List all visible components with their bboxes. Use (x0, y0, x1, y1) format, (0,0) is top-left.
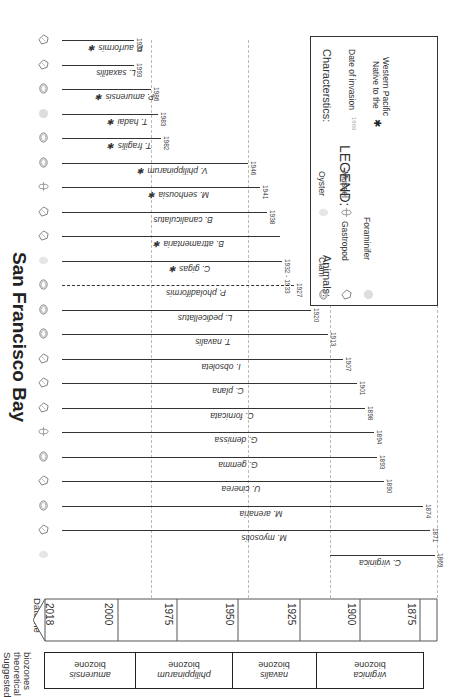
legend-foraminifer-label: Foraminifer (362, 217, 372, 260)
invasion-year: 1938 (269, 210, 276, 224)
invasion-year: 1983 (160, 112, 167, 126)
clam-icon (38, 157, 49, 168)
invasion-year: 1993 (136, 63, 143, 77)
invasion-year: 1946 (250, 161, 257, 175)
gastropod-icon (38, 59, 49, 70)
invasion-line (62, 359, 343, 360)
star-icon: ✱ (372, 119, 383, 127)
foraminifer-icon (363, 289, 374, 300)
invasion-line (62, 432, 374, 433)
invasion-line (62, 334, 328, 335)
invasion-line (62, 65, 134, 66)
gastropod-icon (38, 34, 49, 45)
oyster-icon (38, 549, 49, 560)
species-name: L. pedicellatus (165, 313, 245, 323)
species-name: B. attramentaria ✱ (149, 239, 229, 249)
invasion-line (62, 212, 267, 213)
species-name: C. fornicata (192, 411, 272, 421)
biozone-label: amurensisbiozone (50, 660, 130, 680)
biozones-label-3: biozones (22, 652, 32, 690)
legend-date-sample: 1869 (351, 117, 357, 130)
gastropod-icon (38, 377, 49, 388)
invasion-year: 1890 (386, 479, 393, 493)
invasion-year: 1901 (359, 381, 366, 395)
page-title: San Francisco Bay (8, 252, 30, 422)
species-name: G. gemma (198, 460, 278, 470)
legend-gastropod-label: Gastropod (340, 221, 350, 261)
invasion-year: 1982 (163, 136, 170, 150)
legend-clam-label: Clam (317, 257, 327, 277)
gastropod-icon (38, 402, 49, 413)
invasion-line (62, 114, 158, 115)
gastropod-icon (38, 475, 49, 486)
oyster-icon (318, 207, 329, 218)
invasion-line (62, 408, 365, 409)
dateline-arrow (33, 598, 438, 642)
invasion-line (62, 138, 161, 139)
dateline-1975: 1975 (163, 603, 174, 625)
invasion-line (62, 457, 377, 458)
invasion-year: 1932 - 1933 (284, 259, 291, 294)
species-name: T. hadai ✱ (88, 117, 168, 127)
invasion-year: 1907 (345, 357, 352, 371)
species-name: P. pholadiformis (156, 288, 236, 298)
invasion-year: 1871 (432, 528, 439, 542)
species-name: C. virginica (340, 558, 420, 568)
biozone-label: philippinarumbiozone (144, 660, 224, 680)
dateline-2000: 2000 (103, 603, 114, 625)
species-name: M. arenaria (221, 509, 301, 519)
clam-icon (38, 83, 49, 94)
invasion-line (62, 40, 134, 41)
invasion-line (62, 236, 280, 237)
invasion-line (330, 555, 435, 556)
species-name: G. demissa (196, 435, 276, 445)
species-name: M. senhousia ✱ (139, 190, 219, 200)
invasion-line (62, 506, 423, 507)
mussel-icon (341, 207, 352, 218)
species-name: V. philippinarum ✱ (133, 166, 213, 176)
invasion-line (62, 285, 294, 286)
invasion-year: 1920 (313, 308, 320, 322)
invasion-line (62, 530, 430, 531)
gastropod-icon (38, 353, 49, 364)
legend-date-label: Date of invasion (347, 49, 357, 110)
legend-native-label-1: Native to the (371, 61, 381, 109)
dateline-1900: 1900 (346, 603, 357, 625)
invasion-line (62, 187, 260, 188)
legend-native-label-2: Western Pacific (381, 57, 391, 116)
clam-icon (38, 304, 49, 315)
invasion-year: 1898 (367, 406, 374, 420)
legend-box: LEGEND: Animals: Characterstics: Clam Ga… (310, 36, 438, 306)
legend-oyster-label: Oyster (317, 171, 327, 196)
invasion-year: 1894 (376, 430, 383, 444)
species-name: C. gigas ✱ (150, 264, 230, 274)
clam-icon (318, 289, 329, 300)
clam-icon (38, 279, 49, 290)
invasion-line (62, 163, 248, 164)
biozone-label: navalisbiozone (234, 660, 314, 680)
biozone-label: virginicabiozone (330, 660, 410, 680)
species-name: U. cinerea (201, 484, 281, 494)
invasion-year: 1927 (296, 283, 303, 297)
clam-icon (38, 451, 49, 462)
gastropod-icon (38, 524, 49, 535)
invasion-line (62, 310, 311, 311)
invasion-year: 1893 (379, 455, 386, 469)
dateline-1950: 1950 (224, 603, 235, 625)
foraminifer-icon (38, 108, 49, 119)
dateline-1875: 1875 (406, 603, 417, 625)
species-name: T. fragilis ✱ (90, 141, 170, 151)
invasion-year: 1869 (437, 553, 444, 567)
dateline-2018: 2018 (44, 603, 55, 625)
legend-mussel-label: Mussel (340, 171, 350, 198)
species-name: I. obsoleta (181, 362, 261, 372)
gastropod-icon (38, 230, 49, 241)
clam-icon (38, 328, 49, 339)
species-name: M. myosotis (224, 533, 304, 543)
invasion-year: 1913 (330, 332, 337, 346)
clam-icon (38, 500, 49, 511)
mussel-icon (38, 426, 49, 437)
invasion-line (62, 261, 282, 262)
species-name: B. canaliculatus (143, 215, 223, 225)
mussel-icon (38, 181, 49, 192)
